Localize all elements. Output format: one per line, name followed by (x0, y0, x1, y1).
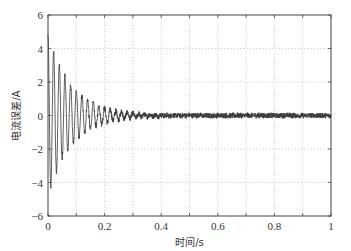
y-tick-label: 2 (38, 76, 44, 88)
x-tick-label: 0.8 (268, 220, 282, 232)
x-tick-label: 0.4 (154, 220, 168, 232)
x-tick-label: 1 (328, 220, 334, 232)
x-axis-label: 时间/s (175, 236, 204, 248)
y-tick-labels: −6−4−20246 (31, 9, 43, 222)
x-tick-label: 0.2 (98, 220, 112, 232)
y-tick-label: 6 (38, 9, 44, 21)
x-tick-label: 0 (45, 220, 51, 232)
y-axis-label: 电流误差/A (10, 90, 22, 140)
y-tick-label: −2 (31, 143, 43, 155)
x-tick-labels: 00.20.40.60.81 (45, 220, 334, 232)
current-error-chart: 00.20.40.60.81 −6−4−20246 时间/s 电流误差/A (0, 0, 351, 251)
y-tick-label: −6 (31, 210, 43, 222)
y-tick-label: −4 (31, 177, 43, 189)
x-tick-label: 0.6 (211, 220, 225, 232)
y-tick-label: 0 (38, 110, 44, 122)
y-tick-label: 4 (38, 43, 44, 55)
